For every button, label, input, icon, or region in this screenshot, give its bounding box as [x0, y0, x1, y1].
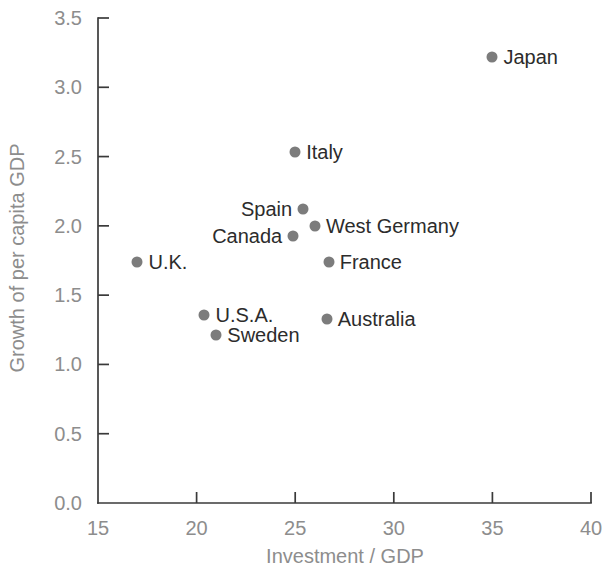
- x-tick-label: 15: [87, 517, 109, 540]
- data-point-label: U.K.: [148, 250, 187, 273]
- data-point-label: Japan: [503, 45, 558, 68]
- data-point-label: Italy: [306, 141, 343, 164]
- data-point-marker: [288, 230, 299, 241]
- plot-axes: [0, 0, 604, 575]
- data-point-marker: [309, 220, 320, 231]
- data-point-label: Spain: [241, 198, 292, 221]
- data-point-label: Sweden: [227, 324, 299, 347]
- x-tick-label: 25: [284, 517, 306, 540]
- data-point-marker: [298, 204, 309, 215]
- y-tick-label: 0.5: [30, 422, 82, 445]
- data-point-marker: [132, 256, 143, 267]
- y-tick-label: 3.0: [30, 76, 82, 99]
- y-tick-label: 2.0: [30, 214, 82, 237]
- data-point-marker: [290, 147, 301, 158]
- data-point-marker: [211, 330, 222, 341]
- data-point-label: Canada: [212, 224, 282, 247]
- data-point-marker: [321, 313, 332, 324]
- y-tick-label: 2.5: [30, 145, 82, 168]
- x-tick-label: 20: [185, 517, 207, 540]
- data-point-label: France: [340, 250, 402, 273]
- data-point-marker: [487, 51, 498, 62]
- data-point-marker: [323, 256, 334, 267]
- y-tick-label: 3.5: [30, 7, 82, 30]
- data-point-label: West Germany: [326, 214, 459, 237]
- scatter-chart: 0.00.51.01.52.02.53.03.5 152025303540 Ja…: [0, 0, 604, 575]
- x-tick-label: 35: [481, 517, 503, 540]
- x-tick-label: 40: [580, 517, 602, 540]
- x-axis-title: Investment / GDP: [266, 545, 424, 568]
- y-tick-label: 0.0: [30, 492, 82, 515]
- data-point-label: U.S.A.: [215, 303, 273, 326]
- y-axis-title: Growth of per capita GDP: [6, 93, 29, 423]
- x-tick-label: 30: [383, 517, 405, 540]
- y-tick-label: 1.5: [30, 284, 82, 307]
- y-tick-label: 1.0: [30, 353, 82, 376]
- data-point-label: Australia: [338, 307, 416, 330]
- data-point-marker: [199, 309, 210, 320]
